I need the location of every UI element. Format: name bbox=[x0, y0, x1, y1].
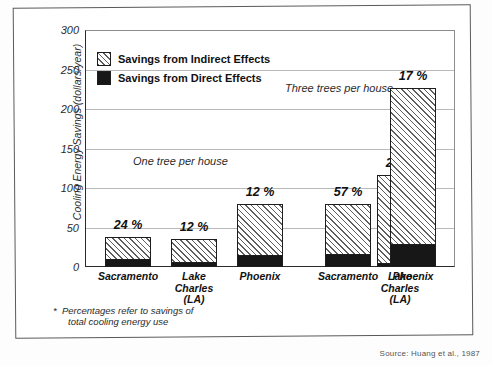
hatched-swatch-icon bbox=[97, 52, 111, 66]
y-axis-tick-label: 250 bbox=[61, 64, 79, 76]
bar-percentage-label: 24 % bbox=[114, 218, 143, 232]
category-label-line: Phoenix bbox=[217, 271, 303, 283]
y-axis-title: Cooling Energy Savings (dollars/year) bbox=[71, 25, 83, 240]
bar-percentage-label: 57 % bbox=[334, 185, 363, 199]
bar-segment-direct[interactable] bbox=[172, 262, 216, 266]
bar-stack[interactable] bbox=[237, 204, 283, 267]
bar-percentage-label: 12 % bbox=[246, 185, 275, 199]
footnote: * Percentages refer to savings of total … bbox=[62, 305, 194, 327]
bar-stack[interactable] bbox=[105, 237, 151, 267]
legend: Savings from Indirect Effects Savings fr… bbox=[97, 52, 270, 90]
legend-item-label: Savings from Indirect Effects bbox=[118, 53, 270, 65]
bar-segment-direct[interactable] bbox=[391, 244, 435, 266]
category-label-line: (LA) bbox=[357, 294, 443, 306]
y-axis-tick-label: 150 bbox=[61, 143, 79, 155]
bar-stack[interactable] bbox=[171, 239, 217, 267]
y-axis-tick-label: 100 bbox=[61, 182, 79, 194]
source-credit: Source: Huang et al., 1987 bbox=[380, 349, 480, 358]
y-axis-tick-label: 0 bbox=[73, 261, 79, 273]
category-label: Phoenix bbox=[370, 271, 456, 283]
y-axis: Cooling Energy Savings (dollars/year) 30… bbox=[45, 30, 79, 267]
bar-segment-direct[interactable] bbox=[326, 254, 370, 266]
figure-canvas: Cooling Energy Savings (dollars/year) 30… bbox=[0, 0, 492, 366]
plot-area: Savings from Indirect Effects Savings fr… bbox=[85, 30, 455, 267]
bar-stack[interactable] bbox=[390, 88, 436, 267]
legend-item-label: Savings from Direct Effects bbox=[118, 72, 262, 84]
category-label: Phoenix bbox=[217, 271, 303, 283]
footnote-marker: * bbox=[53, 305, 57, 316]
y-axis-tick-label: 200 bbox=[61, 103, 79, 115]
group-annotation-one-tree: One tree per house bbox=[133, 155, 228, 167]
y-axis-tick-label: 300 bbox=[61, 24, 79, 36]
bar-segment-direct[interactable] bbox=[106, 259, 150, 266]
footnote-line-2: total cooling energy use bbox=[62, 316, 194, 327]
bar-segment-direct[interactable] bbox=[238, 255, 282, 266]
category-label-line: Phoenix bbox=[370, 271, 456, 283]
bar-percentage-label: 17 % bbox=[399, 69, 428, 83]
group-annotation-three-trees: Three trees per house bbox=[285, 82, 393, 94]
y-axis-tick-label: 50 bbox=[67, 222, 79, 234]
footnote-line-1: Percentages refer to savings of bbox=[62, 305, 194, 316]
legend-item: Savings from Direct Effects bbox=[97, 71, 270, 85]
bar-percentage-label: 12 % bbox=[180, 220, 209, 234]
solid-black-swatch-icon bbox=[97, 71, 111, 85]
legend-item: Savings from Indirect Effects bbox=[97, 52, 270, 66]
bar-stack[interactable] bbox=[325, 204, 371, 267]
category-label-line: (LA) bbox=[151, 294, 237, 306]
